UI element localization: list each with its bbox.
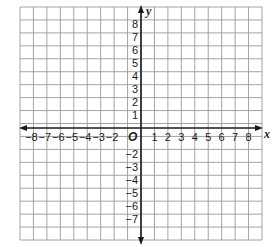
x-tick-label: 2 (165, 131, 171, 143)
y-tick-label: −6 (125, 200, 138, 212)
x-tick-label: 4 (192, 131, 198, 143)
axes (19, 5, 263, 245)
x-tick-label: −7 (39, 131, 52, 143)
x-tick-label: 1 (151, 131, 157, 143)
y-tick-label: −7 (125, 213, 138, 225)
y-tick-label: −4 (125, 174, 138, 186)
x-tick-label: −2 (106, 131, 119, 143)
origin-label: O (128, 130, 138, 144)
y-tick-label: 7 (132, 31, 138, 43)
y-axis-label: y (144, 4, 152, 18)
y-tick-label: 8 (132, 18, 138, 30)
y-tick-label: −3 (125, 161, 138, 173)
y-tick-label: −2 (125, 148, 138, 160)
x-tick-label: −5 (66, 131, 79, 143)
y-tick-label: 2 (132, 96, 138, 108)
y-tick-label: 3 (132, 83, 138, 95)
y-axis-down-arrow-icon (138, 237, 144, 245)
x-axis-label: x (263, 127, 270, 141)
x-tick-label: −6 (52, 131, 65, 143)
x-tick-label: 6 (219, 131, 225, 143)
x-tick-label: −3 (92, 131, 105, 143)
y-tick-label: 6 (132, 44, 138, 56)
y-tick-label: 5 (132, 57, 138, 69)
coordinate-plane: −8−7−6−5−4−3−21234567887654321−2−3−4−5−6… (0, 0, 278, 247)
x-tick-label: 8 (245, 131, 251, 143)
x-tick-label: 7 (232, 131, 238, 143)
y-tick-label: 1 (132, 109, 138, 121)
y-axis-up-arrow-icon (138, 5, 144, 13)
x-tick-label: 5 (205, 131, 211, 143)
tick-labels: −8−7−6−5−4−3−21234567887654321−2−3−4−5−6… (25, 18, 251, 224)
x-tick-label: −8 (25, 131, 38, 143)
y-tick-label: −5 (125, 187, 138, 199)
y-tick-label: 4 (132, 70, 138, 82)
x-tick-label: −4 (79, 131, 92, 143)
x-tick-label: 3 (178, 131, 184, 143)
